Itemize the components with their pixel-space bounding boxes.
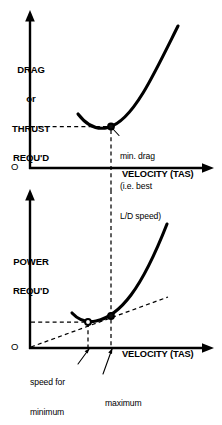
min-power-marker	[85, 319, 91, 325]
bottom-annotation-leaders	[78, 348, 112, 374]
max-range-marker	[108, 313, 114, 319]
min-drag-annotation-line-1: min. drag	[120, 151, 161, 161]
drag-required-curve	[78, 26, 178, 128]
power-y-axis-title-line-1: POWER	[0, 257, 62, 267]
power-y-axis-title: POWER REQU'D	[0, 238, 62, 316]
drag-curve-group	[78, 26, 178, 128]
min-power-annotation-line-1: speed for	[30, 377, 70, 387]
min-drag-annotation-line-2: (i.e. best	[120, 181, 161, 191]
drag-y-axis-title-line-3: THRUST	[0, 124, 62, 134]
min-power-annotation-line-2: minimum	[30, 407, 70, 417]
power-origin-label: O	[11, 342, 18, 352]
power-x-axis-label: VELOCITY (TAS)	[122, 350, 194, 359]
drag-y-axis-arrowhead	[25, 10, 35, 22]
min-drag-annotation: min. drag (i.e. best L/D speed)	[120, 131, 161, 242]
min-drag-leader-line	[113, 129, 120, 136]
figure-root: DRAG or THRUST REQU'D O VELOCITY (TAS) m…	[0, 0, 222, 425]
power-y-axis-title-line-2: REQU'D	[0, 286, 62, 296]
min-power-annotation: speed for minimum power, ∴ max. enduranc…	[30, 357, 70, 425]
drag-origin-label: O	[11, 162, 18, 172]
drag-y-axis-title-line-4: REQU'D	[0, 153, 62, 163]
max-range-annotation: maximum range speed (best L/D, min D)	[105, 378, 168, 425]
min-drag-annotation-line-3: L/D speed)	[120, 211, 161, 221]
drag-y-axis-title-line-2: or	[0, 94, 62, 104]
drag-x-axis-arrowhead	[202, 163, 214, 173]
power-x-axis-arrowhead	[202, 343, 214, 353]
drag-y-axis-title-line-1: DRAG	[0, 65, 62, 75]
power-y-axis-arrowhead	[25, 189, 35, 201]
drag-y-axis-title: DRAG or THRUST REQU'D	[0, 46, 62, 182]
max-range-annotation-line-1: maximum	[105, 398, 168, 408]
